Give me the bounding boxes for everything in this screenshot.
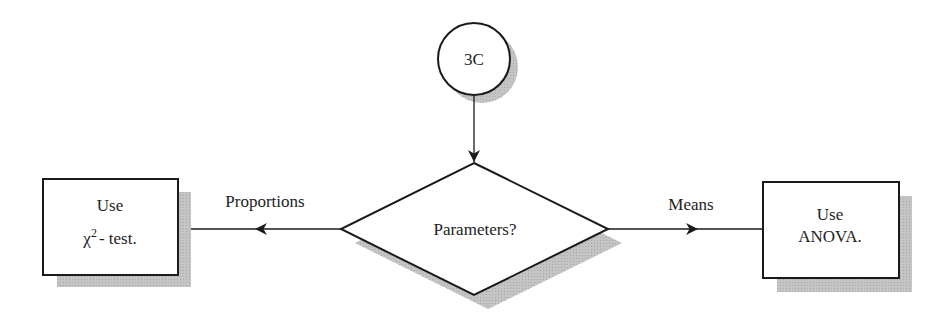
- connector-label: 3C: [464, 50, 484, 69]
- chi-box-line1: Use: [97, 196, 123, 215]
- anova-box-line2: ANOVA.: [798, 227, 861, 246]
- branch-label-proportions: Proportions: [225, 192, 304, 211]
- anova-box: Use ANOVA.: [763, 182, 912, 292]
- decision-diamond: Parameters?: [341, 163, 622, 309]
- chi-box-rect: [43, 179, 178, 275]
- chi-square-box: Use χ2- test.: [43, 179, 191, 287]
- flowchart: 3C Parameters? Proportions Means Use χ2-…: [0, 0, 952, 319]
- connector-3c: 3C: [438, 23, 518, 103]
- chi-box-line2: χ2- test.: [82, 226, 136, 248]
- decision-label: Parameters?: [433, 220, 516, 239]
- branch-label-means: Means: [668, 195, 713, 214]
- anova-box-line1: Use: [817, 205, 843, 224]
